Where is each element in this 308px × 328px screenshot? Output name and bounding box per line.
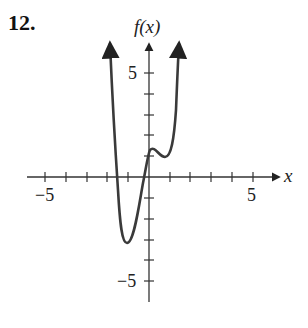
y-tick-label-neg5: −5 (117, 271, 136, 291)
y-tick-label-5: 5 (128, 63, 137, 83)
function-curve (110, 44, 179, 243)
x-axis-label: x (283, 165, 293, 186)
x-tick-label-5: 5 (247, 185, 256, 205)
y-axis-label: f(x) (134, 16, 160, 38)
function-graph: f(x) x −5 5 5 −5 (0, 0, 308, 328)
x-tick-label-neg5: −5 (35, 185, 54, 205)
